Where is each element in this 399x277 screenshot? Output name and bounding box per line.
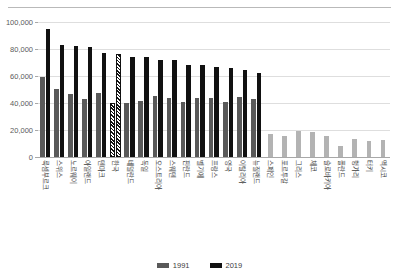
- x-axis-label: 오스트리아: [154, 160, 161, 190]
- bar-1991: [54, 89, 59, 157]
- bar-group: [221, 22, 235, 157]
- bar-1991: [68, 94, 73, 157]
- bar-2019: [102, 53, 107, 157]
- bar-1991: [96, 93, 101, 157]
- x-axis-label-cell: 헝가리: [348, 160, 362, 252]
- bar-group: [320, 22, 334, 157]
- x-axis-label: 스위스: [56, 160, 63, 178]
- bar-1991: [296, 131, 301, 157]
- x-axis-label-cell: 한국: [108, 160, 122, 252]
- bar-1991: [82, 99, 87, 157]
- bar-1991: [282, 136, 287, 157]
- bar-group: [165, 22, 179, 157]
- x-axis-label-cell: 노르웨이: [66, 160, 80, 252]
- bar-1991: [338, 146, 343, 157]
- x-axis-labels: 룩셈부르크스위스노르웨이아일랜드덴마크한국네덜란드독일오스트리아스웨덴핀란드벨기…: [38, 160, 390, 252]
- y-tick-label: 20,000: [10, 126, 33, 135]
- bar-2019: [144, 57, 149, 157]
- x-axis-label: 뉴질랜드: [253, 160, 260, 184]
- bar-1991: [381, 140, 386, 157]
- x-axis-label: 그리스: [295, 160, 302, 178]
- x-axis-label: 체코: [309, 160, 316, 172]
- bar-1991: [324, 136, 329, 157]
- bar-1991: [268, 134, 273, 157]
- bar-group: [305, 22, 319, 157]
- bar-1991: [237, 97, 242, 157]
- y-tick-label: 60,000: [10, 72, 33, 81]
- x-axis-label-cell: 덴마크: [94, 160, 108, 252]
- x-axis-label: 아일랜드: [84, 160, 91, 184]
- bar-1991: [40, 77, 45, 157]
- x-axis-label-cell: 이탈리아: [235, 160, 249, 252]
- bar-1991: [138, 101, 143, 157]
- bar-group: [80, 22, 94, 157]
- bar-2019: [214, 67, 219, 157]
- top-divider: [8, 7, 391, 8]
- x-axis-label-cell: 스페인: [263, 160, 277, 252]
- bar-2019: [116, 54, 121, 157]
- y-tick-label: 0: [29, 153, 33, 162]
- x-axis-label: 영국: [225, 160, 232, 172]
- x-axis-label-cell: 터키: [362, 160, 376, 252]
- bar-group: [291, 22, 305, 157]
- bar-group: [348, 22, 362, 157]
- y-tick-label: 40,000: [10, 99, 33, 108]
- x-axis-label: 독일: [140, 160, 147, 172]
- x-axis-line: [38, 157, 390, 158]
- x-axis-label-cell: 체코: [305, 160, 319, 252]
- bar-2019: [88, 47, 93, 157]
- x-axis-label: 스웨덴: [168, 160, 175, 178]
- x-axis-label: 이탈리아: [239, 160, 246, 184]
- bar-1991: [209, 98, 214, 157]
- x-axis-label: 포르투갈: [281, 160, 288, 184]
- bar-group: [334, 22, 348, 157]
- legend-swatch-2019: [210, 263, 222, 268]
- x-axis-label-cell: 멕시코: [376, 160, 390, 252]
- chart-figure: 020,00040,00060,00080,000100,000 룩셈부르크스위…: [0, 0, 399, 277]
- legend-item-1991: 1991: [157, 261, 190, 270]
- x-axis-label: 한국: [112, 160, 119, 172]
- x-axis-label: 벨기에: [197, 160, 204, 178]
- bar-group: [376, 22, 390, 157]
- bar-group: [193, 22, 207, 157]
- bar-2019: [46, 29, 51, 157]
- bar-1991: [251, 99, 256, 157]
- x-axis-label-cell: 아일랜드: [80, 160, 94, 252]
- x-axis-label: 룩셈부르크: [42, 160, 49, 190]
- x-axis-label-cell: 룩셈부르크: [38, 160, 52, 252]
- x-axis-label-cell: 스위스: [52, 160, 66, 252]
- bar-2019: [158, 60, 163, 157]
- x-axis-label-cell: 뉴질랜드: [249, 160, 263, 252]
- bar-1991: [181, 102, 186, 157]
- x-axis-label-cell: 핀란드: [179, 160, 193, 252]
- plot-area: 020,00040,00060,00080,000100,000: [38, 22, 390, 157]
- legend-swatch-1991: [157, 263, 169, 268]
- bar-group: [151, 22, 165, 157]
- x-axis-label-cell: 오스트리아: [151, 160, 165, 252]
- chart-legend: 1991 2019: [0, 261, 399, 270]
- y-tick-label: 100,000: [6, 18, 33, 27]
- bar-group: [52, 22, 66, 157]
- legend-label-1991: 1991: [173, 261, 190, 270]
- bar-group: [249, 22, 263, 157]
- x-axis-label-cell: 스웨덴: [165, 160, 179, 252]
- bar-2019: [229, 68, 234, 157]
- bar-group: [277, 22, 291, 157]
- bar-2019: [172, 60, 177, 157]
- legend-item-2019: 2019: [210, 261, 243, 270]
- x-axis-label: 스페인: [267, 160, 274, 178]
- y-tick-label: 80,000: [10, 45, 33, 54]
- x-axis-label-cell: 독일: [137, 160, 151, 252]
- bar-group: [207, 22, 221, 157]
- bar-group: [362, 22, 376, 157]
- x-axis-label-cell: 프랑스: [207, 160, 221, 252]
- x-axis-label: 폴란드: [337, 160, 344, 178]
- x-axis-label-cell: 폴란드: [334, 160, 348, 252]
- bar-1991: [167, 98, 172, 157]
- x-axis-label: 네덜란드: [126, 160, 133, 184]
- bar-group: [263, 22, 277, 157]
- x-axis-label-cell: 그리스: [291, 160, 305, 252]
- x-axis-label-cell: 네덜란드: [122, 160, 136, 252]
- bar-2019: [74, 46, 79, 157]
- x-axis-label: 프랑스: [211, 160, 218, 178]
